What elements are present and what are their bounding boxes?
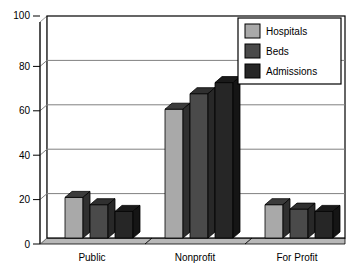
xtick-label-for-profit: For Profit (276, 252, 317, 263)
ytick-label-80: 80 (19, 61, 31, 72)
bar-forprofit-beds (290, 203, 315, 238)
bar-public-beds (90, 199, 115, 238)
ytick-label-20: 20 (19, 194, 31, 205)
legend-label-beds: Beds (266, 46, 289, 57)
ytick-label-60: 60 (19, 105, 31, 116)
legend-label-admissions: Admissions (266, 66, 317, 77)
legend-swatch-hospitals (245, 24, 260, 38)
bar-nonprofit-hospitals (165, 103, 190, 238)
chart-canvas: 100 80 60 40 20 0 (0, 0, 353, 274)
bar-nonprofit-beds (190, 88, 215, 238)
legend-label-hospitals: Hospitals (266, 26, 307, 37)
bar-public-admissions (115, 205, 140, 238)
xtick-label-public: Public (78, 252, 105, 263)
bar-chart: 100 80 60 40 20 0 (0, 0, 353, 274)
bar-forprofit-hospitals (265, 199, 290, 238)
ytick-label-0: 0 (24, 239, 30, 250)
ytick-label-100: 100 (13, 10, 30, 21)
legend-swatch-beds (245, 44, 260, 58)
bar-public-hospitals (65, 191, 90, 238)
xtick-label-nonprofit: Nonprofit (175, 252, 216, 263)
legend-swatch-admissions (245, 64, 260, 78)
bar-forprofit-admissions (315, 205, 340, 238)
legend: Hospitals Beds Admissions (238, 18, 341, 84)
floor-plane (40, 238, 345, 244)
left-wall-plane (40, 16, 47, 244)
ytick-label-40: 40 (19, 150, 31, 161)
bar-nonprofit-admissions (215, 77, 240, 238)
